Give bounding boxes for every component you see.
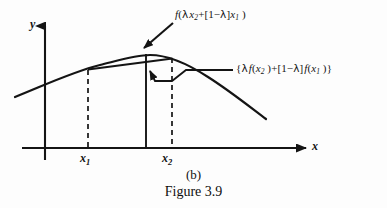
- annotation-top-close: ): [239, 8, 246, 20]
- figure-panel: f(λ x2+[1−λ]x1 ) {λ f(x2 )+[1−λ] f(x1 )}…: [0, 0, 387, 208]
- caption-block: (b) Figure 3.9: [0, 168, 387, 200]
- tick-label-x1: x1: [80, 152, 90, 167]
- caption-subfigure: (b): [0, 168, 387, 183]
- annotation-chord-close-brace: }: [327, 62, 332, 74]
- tick-x2-sub: 2: [168, 157, 172, 167]
- tick-label-x2: x2: [162, 152, 172, 167]
- function-curve: [15, 55, 266, 119]
- leader-arrow-top: [144, 23, 173, 48]
- leader-arrow-chord: [150, 70, 233, 81]
- y-axis-label: y: [30, 18, 35, 30]
- annotation-chord-bracket: ]: [299, 62, 303, 74]
- annotation-top-plus: +[1−: [198, 8, 220, 20]
- x-axis-label: x: [312, 140, 318, 152]
- annotation-top-label: f(λ x2+[1−λ]x1 ): [175, 9, 246, 22]
- lambda-symbol: λ: [241, 62, 247, 74]
- tick-x1-sub: 1: [86, 157, 90, 167]
- annotation-chord-close2: ): [320, 62, 327, 74]
- lambda-symbol: λ: [182, 8, 188, 20]
- annotation-chord-plus: +[1−: [271, 62, 293, 74]
- annotation-chord-label: {λ f(x2 )+[1−λ] f(x1 )}: [236, 63, 332, 76]
- caption-figure-number: Figure 3.9: [0, 184, 387, 200]
